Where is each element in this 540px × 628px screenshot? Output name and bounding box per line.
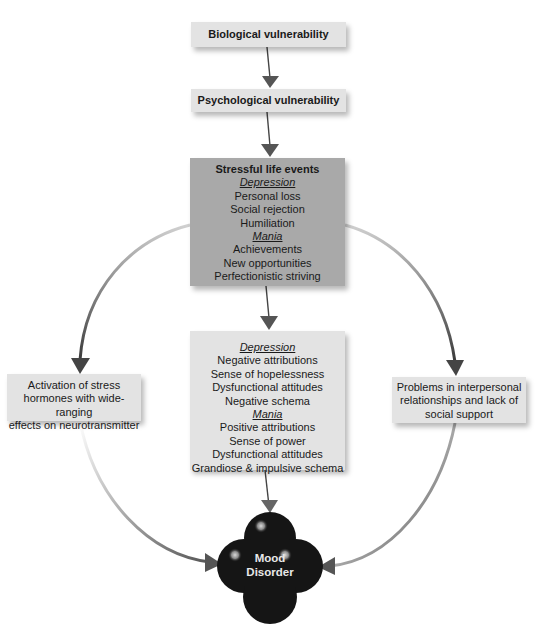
list-item: Social rejection bbox=[190, 203, 345, 216]
arrow-bio-to-psych bbox=[262, 47, 279, 88]
mood-disorder-line: Disorder bbox=[235, 565, 305, 579]
list-item: Grandiose & impulsive schema bbox=[190, 462, 345, 475]
box-line: Problems in interpersonal bbox=[392, 381, 526, 394]
list-item: Negative schema bbox=[190, 395, 345, 408]
list-item: Dysfunctional attitudes bbox=[190, 381, 345, 394]
arrow-stress-to-cognitive bbox=[260, 286, 278, 330]
list-item: New opportunities bbox=[190, 257, 345, 270]
list-item: Sense of power bbox=[190, 435, 345, 448]
box-line: relationships and lack of bbox=[392, 394, 526, 407]
mood-disorder-diagram: Biological vulnerability Psychological v… bbox=[0, 0, 540, 628]
list-item: Dysfunctional attitudes bbox=[190, 448, 345, 461]
biological-vulnerability-box: Biological vulnerability bbox=[191, 22, 346, 47]
list-item: Humiliation bbox=[190, 217, 345, 230]
section-heading-depression: Depression bbox=[190, 341, 345, 354]
arrow-cognitive-to-cloud bbox=[261, 470, 278, 513]
list-item: Personal loss bbox=[190, 190, 345, 203]
biological-vulnerability-label: Biological vulnerability bbox=[208, 28, 328, 40]
box-line: Activation of stress bbox=[7, 379, 141, 392]
mood-disorder-label: Mood Disorder bbox=[235, 551, 305, 579]
arrow-stress-to-hormones bbox=[71, 225, 190, 374]
box-line: effects on neurotransmitter bbox=[7, 419, 141, 432]
cognitive-factors-box: Depression Negative attributions Sense o… bbox=[190, 331, 345, 470]
list-item: Positive attributions bbox=[190, 421, 345, 434]
arrow-stress-to-social bbox=[345, 225, 464, 376]
box-line: hormones with wide-ranging bbox=[7, 392, 141, 419]
mood-disorder-line: Mood bbox=[235, 551, 305, 565]
psychological-vulnerability-box: Psychological vulnerability bbox=[191, 89, 346, 112]
section-heading-depression: Depression bbox=[190, 176, 345, 189]
stress-hormones-box: Activation of stress hormones with wide-… bbox=[7, 374, 141, 421]
box-line: social support bbox=[392, 408, 526, 421]
stressful-life-events-box: Stressful life events Depression Persona… bbox=[190, 158, 345, 286]
list-item: Achievements bbox=[190, 243, 345, 256]
list-item: Sense of hopelessness bbox=[190, 368, 345, 381]
list-item: Negative attributions bbox=[190, 354, 345, 367]
psychological-vulnerability-label: Psychological vulnerability bbox=[198, 94, 340, 106]
arrow-psych-to-stress bbox=[261, 112, 279, 157]
section-heading-mania: Mania bbox=[190, 408, 345, 421]
section-heading-mania: Mania bbox=[190, 230, 345, 243]
stressful-life-events-title: Stressful life events bbox=[190, 163, 345, 176]
list-item: Perfectionistic striving bbox=[190, 270, 345, 283]
social-support-box: Problems in interpersonal relationships … bbox=[392, 377, 526, 423]
